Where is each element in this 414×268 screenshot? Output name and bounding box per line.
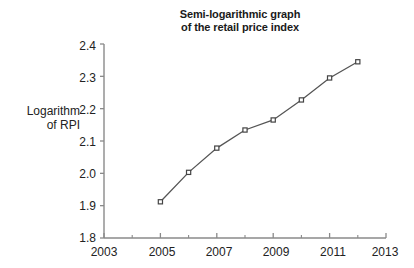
chart-figure: Semi-logarithmic graph of the retail pri… xyxy=(0,0,414,268)
data-point xyxy=(158,200,162,204)
data-point xyxy=(299,98,303,102)
data-point xyxy=(328,76,332,80)
data-series-line xyxy=(160,62,357,202)
data-point xyxy=(356,60,360,64)
data-point xyxy=(187,170,191,174)
data-point xyxy=(271,118,275,122)
x-axis-ticks xyxy=(104,233,386,238)
chart-plot-area xyxy=(0,0,414,268)
data-series-markers xyxy=(158,60,360,204)
data-point xyxy=(243,128,247,132)
data-point xyxy=(215,146,219,150)
